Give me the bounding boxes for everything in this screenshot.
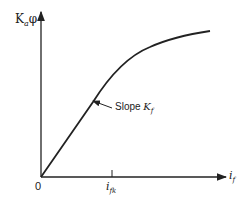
tick-label: ifk — [106, 180, 116, 195]
diagram: Kaφ 0 ifk if Slope Kf — [0, 0, 244, 198]
slope-arrow — [93, 101, 112, 108]
origin-label: 0 — [35, 180, 41, 192]
slope-annotation: Slope Kf — [115, 101, 153, 115]
y-axis-label: Kaφ — [15, 12, 37, 28]
x-axis-label: if — [229, 169, 235, 184]
plot-area — [0, 0, 244, 198]
